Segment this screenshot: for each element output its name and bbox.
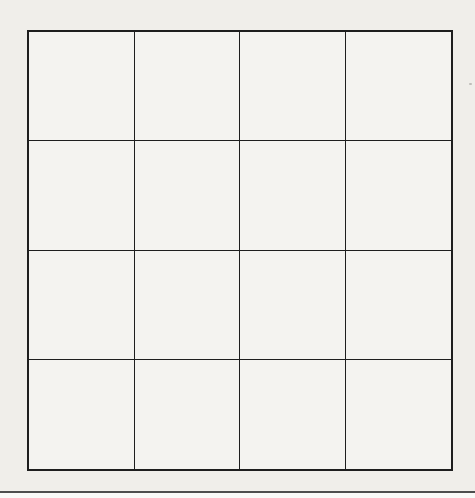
- grid-cell: [135, 141, 241, 250]
- scanned-paper-background: [0, 0, 475, 493]
- blank-4x4-grid: [27, 30, 453, 471]
- grid-cell: [29, 141, 135, 250]
- grid-cell: [240, 141, 346, 250]
- dust-speck-artifact: [469, 83, 472, 85]
- grid-cell: [240, 32, 346, 141]
- grid-cell: [135, 251, 241, 360]
- grid-cell: [240, 360, 346, 469]
- grid-cell: [29, 32, 135, 141]
- grid-cell: [346, 251, 452, 360]
- grid-cell: [29, 251, 135, 360]
- grid-cell: [135, 360, 241, 469]
- grid-cell: [346, 32, 452, 141]
- grid-cell: [240, 251, 346, 360]
- grid-cell: [346, 141, 452, 250]
- below-page-surface: [0, 493, 475, 498]
- grid-cell: [346, 360, 452, 469]
- grid-cell: [135, 32, 241, 141]
- grid-cell: [29, 360, 135, 469]
